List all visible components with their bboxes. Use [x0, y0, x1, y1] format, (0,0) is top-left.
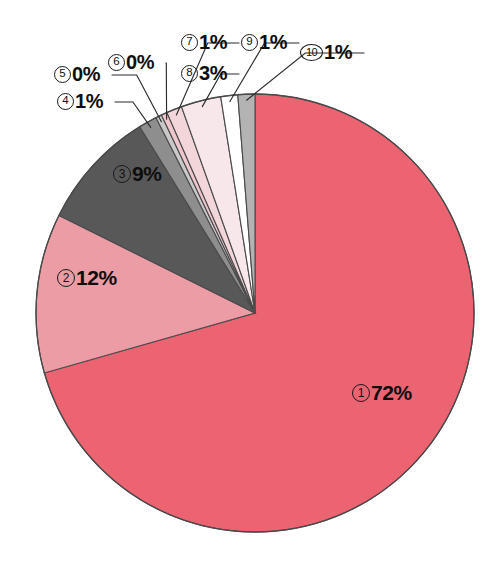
slice-label-3: 39%	[113, 163, 162, 184]
slice-percent-1: 72%	[371, 382, 412, 403]
slice-percent-9: 1%	[259, 32, 287, 52]
slice-label-1: 172%	[352, 382, 412, 403]
pie-chart-figure: 172%212%39%41%50%60%71%83%91%101%	[0, 0, 493, 579]
slice-percent-10: 1%	[324, 42, 352, 62]
slice-percent-8: 3%	[199, 63, 227, 83]
slice-label-4: 41%	[57, 91, 103, 111]
slice-marker-2: 2	[57, 269, 75, 287]
slice-marker-7: 7	[181, 34, 198, 51]
slice-percent-6: 0%	[126, 52, 154, 72]
slice-label-5: 50%	[54, 64, 100, 84]
slice-marker-6: 6	[108, 54, 125, 71]
slice-marker-10: 10	[300, 44, 323, 61]
slice-marker-9: 9	[241, 34, 258, 51]
slice-label-2: 212%	[57, 267, 117, 288]
slice-marker-8: 8	[181, 65, 198, 82]
slice-label-8: 83%	[181, 63, 227, 83]
slice-percent-4: 1%	[75, 91, 103, 111]
pie-chart-canvas	[0, 0, 493, 579]
slice-marker-4: 4	[57, 93, 74, 110]
slice-marker-5: 5	[54, 66, 71, 83]
pie-slices-group	[36, 94, 474, 532]
slice-label-7: 71%	[181, 32, 227, 52]
slice-percent-5: 0%	[72, 64, 100, 84]
slice-percent-2: 12%	[76, 267, 117, 288]
slice-percent-3: 9%	[132, 163, 162, 184]
slice-label-10: 101%	[300, 42, 352, 62]
slice-label-9: 91%	[241, 32, 287, 52]
leader-line-6	[166, 63, 167, 119]
slice-label-6: 60%	[108, 52, 154, 72]
slice-marker-3: 3	[113, 165, 131, 183]
slice-percent-7: 1%	[199, 32, 227, 52]
slice-marker-1: 1	[352, 384, 370, 402]
leader-line-5	[112, 75, 161, 122]
